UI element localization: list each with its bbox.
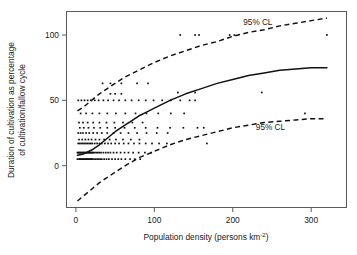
data-point [169,127,171,129]
data-point [122,139,124,141]
data-point [326,34,328,36]
data-point [113,100,115,102]
data-point [123,143,125,145]
data-point [124,113,126,115]
x-tick-label: 200 [226,215,240,225]
data-point [99,152,101,154]
data-point [99,127,101,129]
data-point [114,143,116,145]
data-point [206,143,208,145]
data-point [304,113,306,115]
data-point [108,158,110,160]
data-point [103,152,105,154]
data-point [147,83,149,85]
data-point [114,127,116,129]
data-point [93,158,95,160]
data-point [96,143,98,145]
data-point [92,132,94,134]
data-point [179,100,181,102]
data-point [94,152,96,154]
data-point [102,83,104,85]
y-tick-label: 0 [54,161,59,171]
data-point [84,143,86,145]
data-point [99,139,101,141]
data-point [106,132,108,134]
data-point [92,143,94,145]
data-point [82,143,84,145]
data-point [194,34,196,36]
data-point [106,122,108,124]
data-point [82,122,84,124]
data-point [101,158,103,160]
y-axis-title-line-2: of cultivation/fallow cycle [17,64,27,156]
data-point [104,143,106,145]
data-point [167,132,169,134]
data-point [92,158,94,160]
data-point [118,100,120,102]
data-point [203,127,205,129]
data-point [92,113,94,115]
scatter-plot: 0100200300 050100 95% CL95% CL Populatio… [0,0,357,255]
data-point [99,122,101,124]
data-point [109,139,111,141]
data-point [88,127,90,129]
data-point [83,127,85,129]
x-axis-title-main: Population density (persons km [144,232,261,242]
data-point [124,158,126,160]
data-point [77,100,79,102]
fitted-logistic-curve [77,68,326,156]
data-point [129,158,131,160]
data-point [153,100,155,102]
data-point [77,158,79,160]
data-point [144,152,146,154]
data-point [82,132,84,134]
data-point [105,152,107,154]
data-point [94,143,96,145]
data-point [88,143,90,145]
data-point [96,158,98,160]
data-point [106,127,108,129]
y-tick-label: 50 [50,95,60,105]
data-point [124,152,126,154]
data-point [122,122,124,124]
data-point [98,158,100,160]
data-point [116,152,118,154]
x-axis-title-tail: ) [266,232,269,242]
data-point [135,113,137,115]
data-point [128,152,130,154]
upper-confidence-label: 95% CL [243,18,273,27]
data-point [106,158,108,160]
data-point [197,127,199,129]
data-point [78,139,80,141]
data-point [99,113,101,115]
data-point [132,152,134,154]
data-point [110,83,112,85]
data-point [81,139,83,141]
data-point [161,100,163,102]
data-point [170,113,172,115]
data-point [87,143,89,145]
data-point [84,139,86,141]
data-point [183,127,185,129]
data-point [134,127,136,129]
data-point [81,143,83,145]
data-point [80,113,82,115]
data-point [85,113,87,115]
data-point [85,132,87,134]
y-axis-ticks: 050100 [45,30,66,171]
data-point [117,158,119,160]
data-point [94,100,96,102]
data-point [95,152,97,154]
data-point [136,83,138,85]
data-point [145,127,147,129]
data-point [115,139,117,141]
data-point [91,139,93,141]
data-point [138,152,140,154]
data-point [183,113,185,115]
x-axis-title: Population density (persons km-2) [144,232,269,242]
data-point [189,100,191,102]
data-point [98,100,100,102]
data-point [103,100,105,102]
data-point [107,143,109,145]
data-point [139,139,141,141]
